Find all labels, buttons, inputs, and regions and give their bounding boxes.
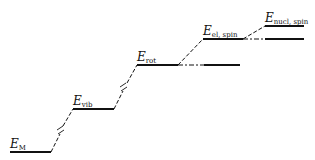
label-e-el-spin: Eel, spin: [202, 24, 238, 39]
label-e-vib: Evib: [72, 94, 93, 109]
transition-vib-to-rot: [114, 65, 137, 109]
break-mark-m-vib: [57, 126, 64, 134]
transition-el-spin-to-nucl-spin: [243, 26, 265, 39]
break-mark-vib-rot: [120, 83, 127, 91]
label-e-nucl-spin: Enucl, spin: [264, 11, 309, 26]
label-e-m: EM: [9, 137, 26, 152]
transition-m-to-vib: [51, 109, 73, 152]
transition-rot-to-el-spin: [178, 39, 203, 65]
energy-level-diagram: EM Evib Erot Eel, spin Enucl, spin: [0, 0, 315, 160]
label-e-rot: Erot: [136, 50, 156, 65]
